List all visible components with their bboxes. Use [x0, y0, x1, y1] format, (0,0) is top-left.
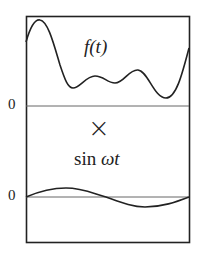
f-of-t-label: f(t)	[84, 36, 107, 58]
f-of-t-curve	[26, 20, 189, 98]
multiply-operator: ×	[88, 113, 110, 143]
sine-label: sin ωt	[74, 148, 120, 170]
top-zero-label: 0	[8, 96, 16, 113]
bottom-zero-label: 0	[8, 187, 16, 204]
sine-label-prefix: sin	[74, 148, 101, 169]
sine-label-omega: ω	[101, 148, 114, 169]
sine-label-var: t	[114, 148, 119, 169]
